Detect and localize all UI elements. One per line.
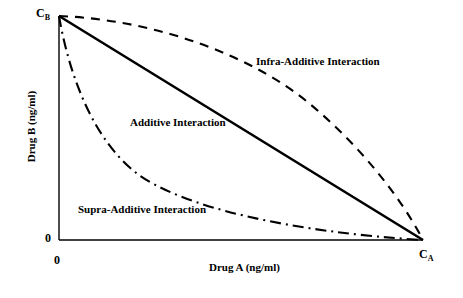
plot-area [0, 0, 463, 298]
x-axis-title: Drug A (ng/ml) [209, 262, 280, 273]
y-axis-max-tick-subscript: B [45, 13, 50, 22]
x-axis-max-tick-subscript: A [428, 254, 434, 263]
y-axis-zero-tick-label: 0 [45, 232, 51, 244]
isobologram-figure: CB CA 0 0 Drug A (ng/ml) Drug B (ng/ml) … [0, 0, 463, 298]
x-axis-max-tick-text: C [419, 247, 428, 261]
y-axis-title: Drug B (ng/ml) [26, 79, 37, 175]
y-axis-max-tick-text: C [36, 6, 45, 20]
x-axis-zero-tick-label: 0 [54, 254, 60, 266]
x-axis-max-tick-label: CA [419, 248, 433, 263]
supra-additive-annotation: Supra-Additive Interaction [78, 204, 206, 215]
y-axis-max-tick-label: CB [36, 7, 50, 22]
additive-annotation: Additive Interaction [130, 117, 226, 128]
infra-additive-annotation: Infra-Additive Interaction [256, 56, 380, 67]
